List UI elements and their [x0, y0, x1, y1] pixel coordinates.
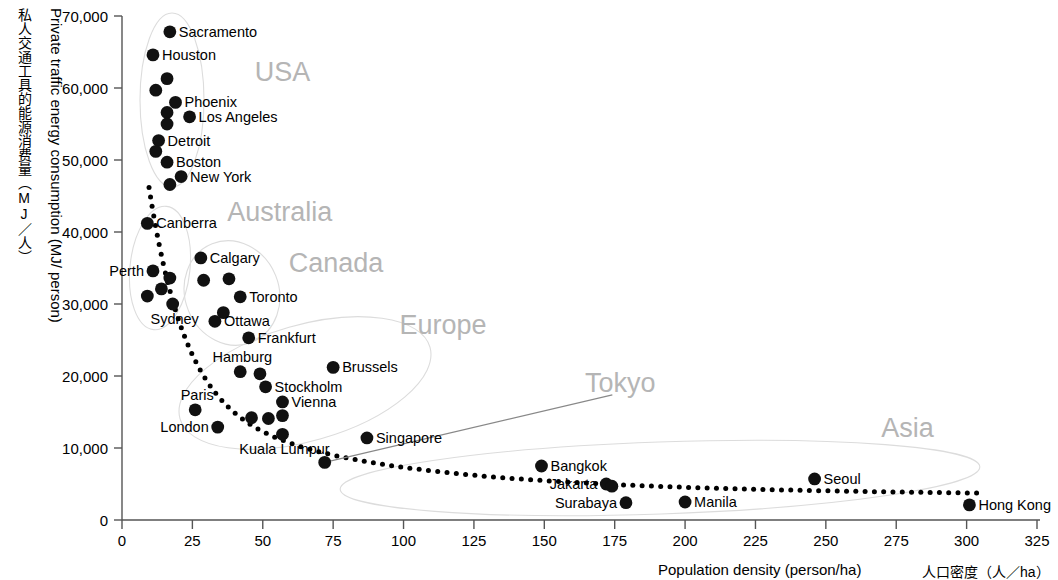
trend-dot: [863, 489, 868, 494]
data-point-marker[interactable]: [242, 331, 255, 344]
data-point-marker[interactable]: [211, 421, 224, 434]
data-point-marker[interactable]: [163, 25, 176, 38]
y-tick-label: 0: [100, 512, 108, 529]
data-point[interactable]: [318, 456, 331, 469]
data-point[interactable]: Manila: [679, 494, 738, 510]
data-point-marker[interactable]: [189, 403, 202, 416]
trend-dot: [445, 470, 450, 475]
data-point[interactable]: Frankfurt: [242, 330, 315, 346]
data-point[interactable]: [161, 72, 174, 85]
data-point[interactable]: Vienna: [276, 394, 337, 410]
data-point[interactable]: [163, 272, 176, 285]
data-point-marker[interactable]: [234, 290, 247, 303]
data-point-marker[interactable]: [223, 272, 236, 285]
data-point[interactable]: Sacramento: [163, 24, 257, 40]
trend-dot: [835, 489, 840, 494]
trend-dot: [510, 476, 515, 481]
data-point-marker[interactable]: [141, 217, 154, 230]
data-point[interactable]: [161, 106, 174, 119]
data-point-marker[interactable]: [276, 428, 289, 441]
data-point-marker[interactable]: [161, 72, 174, 85]
data-point-marker[interactable]: [254, 367, 267, 380]
data-point[interactable]: Seoul: [808, 471, 860, 487]
trend-dot: [202, 376, 207, 381]
data-point-marker[interactable]: [318, 456, 331, 469]
data-point-marker[interactable]: [259, 380, 272, 393]
data-point[interactable]: Sydney: [150, 298, 199, 327]
data-point[interactable]: [245, 411, 258, 424]
trend-dot: [407, 466, 412, 471]
data-point[interactable]: Brussels: [327, 359, 398, 375]
data-point-marker[interactable]: [963, 498, 976, 511]
trend-dot: [965, 490, 970, 495]
data-point-marker[interactable]: [535, 460, 548, 473]
data-point[interactable]: Houston: [147, 47, 216, 63]
data-point[interactable]: [276, 409, 289, 422]
data-point-marker[interactable]: [166, 298, 179, 311]
data-point-marker[interactable]: [161, 156, 174, 169]
data-point[interactable]: [262, 412, 275, 425]
data-point-marker[interactable]: [605, 480, 618, 493]
trend-dot: [389, 463, 394, 468]
data-point[interactable]: Kuala Lumpur: [239, 428, 329, 457]
data-point[interactable]: Jakarta: [550, 476, 613, 492]
x-tick-label: 100: [391, 532, 416, 549]
data-point[interactable]: [254, 367, 267, 380]
trend-dot: [147, 185, 152, 190]
data-point-marker[interactable]: [276, 409, 289, 422]
data-point[interactable]: Calgary: [194, 250, 260, 266]
data-point-marker[interactable]: [276, 396, 289, 409]
y-tick-label: 30,000: [62, 296, 108, 313]
data-point-marker[interactable]: [147, 264, 160, 277]
data-point[interactable]: [163, 178, 176, 191]
data-point[interactable]: [155, 282, 168, 295]
data-point[interactable]: Ottawa: [209, 313, 271, 329]
data-point-marker[interactable]: [234, 365, 247, 378]
data-point-marker[interactable]: [155, 282, 168, 295]
data-point[interactable]: Paris: [181, 387, 214, 416]
data-point-marker[interactable]: [149, 84, 162, 97]
data-point[interactable]: New York: [175, 169, 252, 185]
data-point-marker[interactable]: [209, 315, 222, 328]
data-point-marker[interactable]: [149, 145, 162, 158]
data-point-marker[interactable]: [808, 473, 821, 486]
data-point-marker[interactable]: [152, 134, 165, 147]
data-point-marker[interactable]: [327, 361, 340, 374]
trend-dot: [872, 489, 877, 494]
data-point[interactable]: Toronto: [234, 289, 298, 305]
data-point-marker[interactable]: [361, 432, 374, 445]
data-point[interactable]: [605, 480, 618, 493]
data-point[interactable]: London: [160, 419, 224, 435]
data-point[interactable]: Los Angeles: [183, 109, 277, 125]
data-point[interactable]: Stockholm: [259, 379, 342, 395]
data-point-marker[interactable]: [183, 110, 196, 123]
data-point[interactable]: [223, 272, 236, 285]
data-point-marker[interactable]: [163, 178, 176, 191]
data-point-marker[interactable]: [161, 106, 174, 119]
data-point-marker[interactable]: [679, 496, 692, 509]
data-point[interactable]: [149, 145, 162, 158]
region-label-australia: Australia: [227, 197, 333, 227]
data-point-marker[interactable]: [194, 252, 207, 265]
data-point-marker[interactable]: [262, 412, 275, 425]
trend-dot: [760, 487, 765, 492]
data-point-marker[interactable]: [197, 274, 210, 287]
data-point-marker[interactable]: [147, 48, 160, 61]
data-point[interactable]: Singapore: [361, 430, 443, 446]
data-point[interactable]: [161, 118, 174, 131]
data-point[interactable]: Detroit: [152, 133, 210, 149]
data-point-marker[interactable]: [245, 411, 258, 424]
data-point[interactable]: [141, 290, 154, 303]
data-point-marker[interactable]: [161, 118, 174, 131]
data-point-marker[interactable]: [141, 290, 154, 303]
data-point[interactable]: Hong Kong: [963, 497, 1051, 513]
data-point-marker[interactable]: [175, 170, 188, 183]
data-point-marker[interactable]: [163, 272, 176, 285]
data-point-marker[interactable]: [620, 496, 633, 509]
data-point[interactable]: [149, 84, 162, 97]
data-point-marker[interactable]: [169, 96, 182, 109]
data-point[interactable]: Surabaya: [555, 495, 632, 511]
data-point[interactable]: Perth: [109, 263, 159, 279]
data-point[interactable]: Bangkok: [535, 458, 608, 474]
data-point[interactable]: [197, 274, 210, 287]
